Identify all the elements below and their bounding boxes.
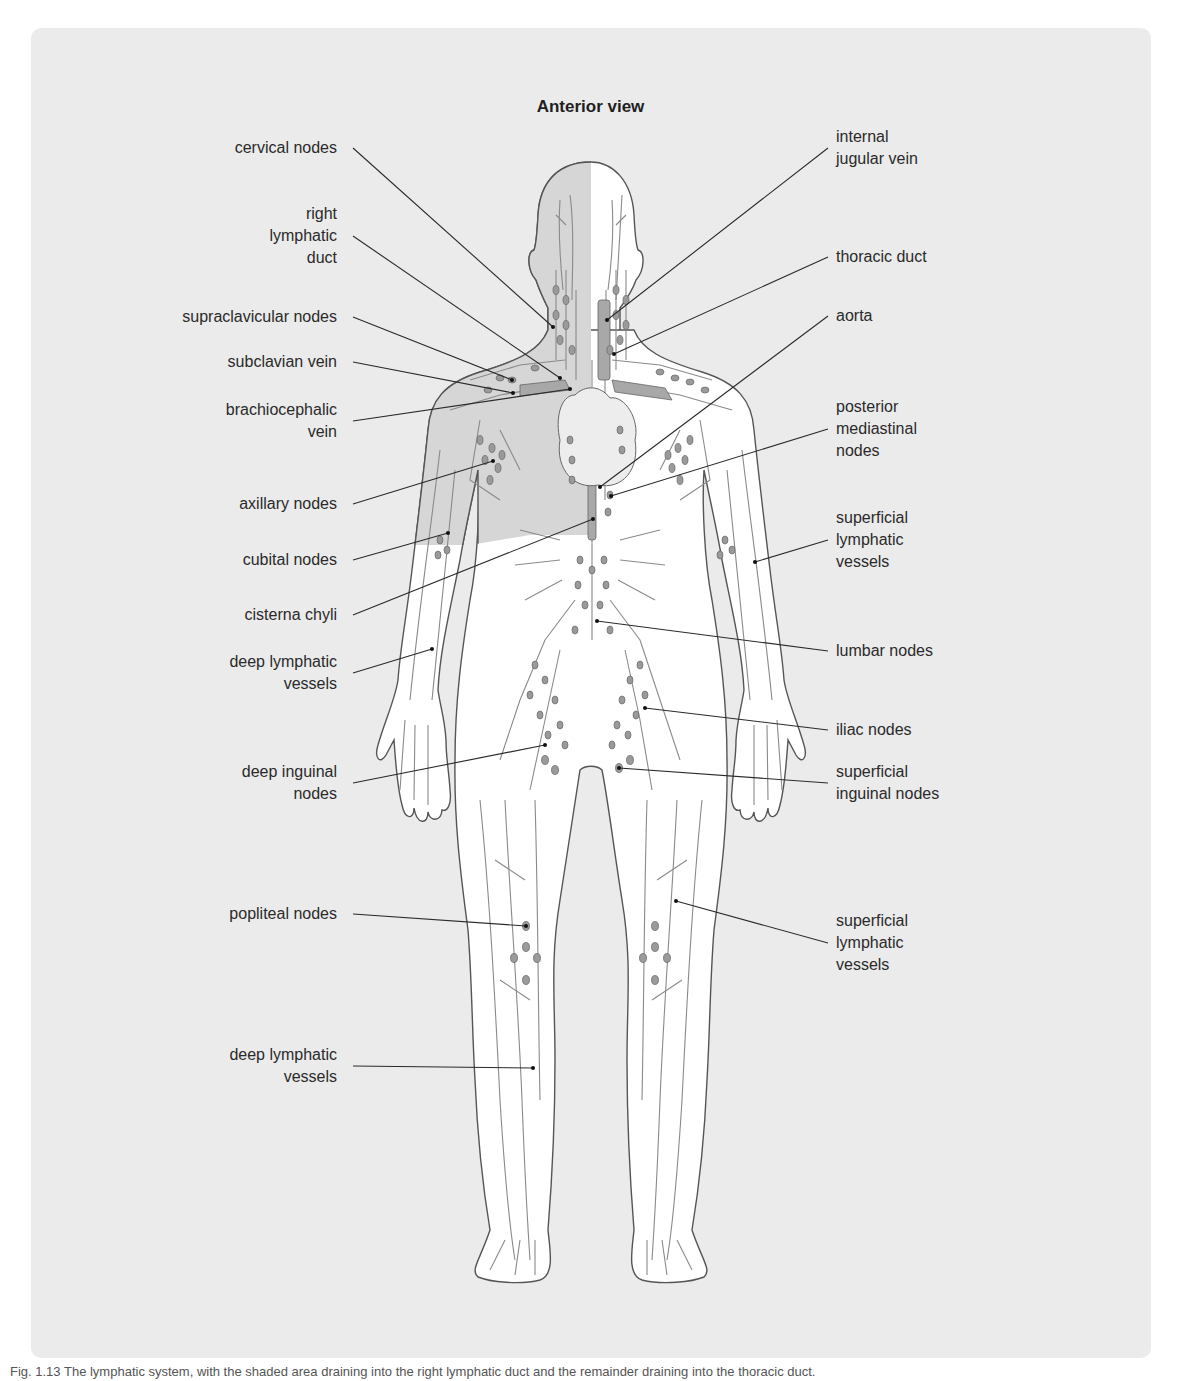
cisterna-chyli-shape bbox=[588, 480, 596, 540]
label-brachiocephalic-vein: brachiocephalic vein bbox=[226, 399, 337, 443]
leader-dot-aorta bbox=[598, 485, 602, 489]
leader-dot-deep-lymphatic-vessels-arm bbox=[430, 647, 434, 651]
label-internal-jugular-vein: internal jugular vein bbox=[836, 126, 918, 170]
leader-dot-subclavian-vein bbox=[511, 391, 515, 395]
label-aorta: aorta bbox=[836, 305, 872, 327]
label-right-lymphatic-duct: right lymphatic duct bbox=[269, 203, 337, 269]
leader-dot-cubital-nodes bbox=[446, 531, 450, 535]
leader-dot-deep-inguinal-nodes bbox=[543, 743, 547, 747]
figure-caption: Fig. 1.13 The lymphatic system, with the… bbox=[10, 1364, 815, 1379]
label-cervical-nodes: cervical nodes bbox=[235, 137, 337, 159]
label-thoracic-duct: thoracic duct bbox=[836, 246, 927, 268]
leader-dot-internal-jugular-vein bbox=[605, 318, 609, 322]
leader-dot-popliteal-nodes bbox=[524, 924, 528, 928]
internal-jugular-vein-shape bbox=[598, 300, 610, 380]
leader-dot-superficial-lymphatic-vessels-arm bbox=[753, 560, 757, 564]
label-posterior-mediastinal-nodes: posterior mediastinal nodes bbox=[836, 396, 917, 462]
leader-dot-brachiocephalic-vein bbox=[568, 387, 572, 391]
label-supraclavicular-nodes: supraclavicular nodes bbox=[182, 306, 337, 328]
label-subclavian-vein: subclavian vein bbox=[228, 351, 337, 373]
label-popliteal-nodes: popliteal nodes bbox=[229, 903, 337, 925]
leader-dot-supraclavicular-nodes bbox=[510, 378, 514, 382]
label-lumbar-nodes: lumbar nodes bbox=[836, 640, 933, 662]
label-superficial-lymphatic-vessels-arm: superficial lymphatic vessels bbox=[836, 507, 908, 573]
leader-dot-superficial-lymphatic-vessels-leg bbox=[674, 899, 678, 903]
label-cisterna-chyli: cisterna chyli bbox=[245, 604, 337, 626]
label-cubital-nodes: cubital nodes bbox=[243, 549, 337, 571]
figure-title: Anterior view bbox=[0, 97, 1181, 117]
leader-dot-deep-lymphatic-vessels-leg bbox=[531, 1066, 535, 1070]
leader-dot-iliac-nodes bbox=[643, 706, 647, 710]
leader-internal-jugular-vein bbox=[607, 148, 828, 320]
body-diagram bbox=[0, 0, 1181, 1381]
leader-dot-lumbar-nodes bbox=[595, 619, 599, 623]
label-superficial-lymphatic-vessels-leg: superficial lymphatic vessels bbox=[836, 910, 908, 976]
leader-dot-superficial-inguinal-nodes bbox=[617, 766, 621, 770]
label-iliac-nodes: iliac nodes bbox=[836, 719, 912, 741]
leader-dot-cisterna-chyli bbox=[591, 517, 595, 521]
leader-supraclavicular-nodes bbox=[353, 317, 512, 380]
label-deep-lymphatic-vessels-leg: deep lymphatic vessels bbox=[229, 1044, 337, 1088]
leader-dot-thoracic-duct bbox=[612, 352, 616, 356]
leader-dot-cervical-nodes bbox=[551, 325, 555, 329]
leader-dot-axillary-nodes bbox=[491, 459, 495, 463]
label-axillary-nodes: axillary nodes bbox=[239, 493, 337, 515]
label-deep-lymphatic-vessels-arm: deep lymphatic vessels bbox=[229, 651, 337, 695]
leader-dot-right-lymphatic-duct bbox=[558, 376, 562, 380]
leader-cervical-nodes bbox=[353, 148, 553, 327]
leader-dot-posterior-mediastinal-nodes bbox=[609, 494, 613, 498]
label-superficial-inguinal-nodes: superficial inguinal nodes bbox=[836, 761, 939, 805]
label-deep-inguinal-nodes: deep inguinal nodes bbox=[242, 761, 337, 805]
